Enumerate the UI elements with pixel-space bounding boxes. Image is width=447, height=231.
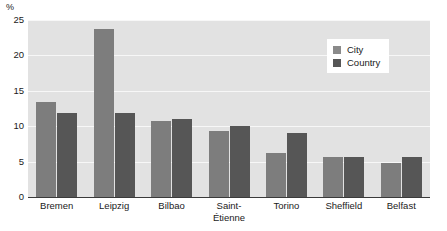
x-axis-label-line: Belfast: [387, 200, 416, 211]
bar-country: [287, 133, 307, 197]
legend-swatch-icon: [333, 46, 341, 54]
y-axis-tick-label: 5: [2, 157, 24, 167]
bar-city: [323, 157, 343, 197]
y-axis-tick-label: 10: [2, 121, 24, 131]
bar-group: [266, 20, 307, 197]
x-axis-label-line: Sheffield: [325, 200, 362, 211]
bar-country: [230, 126, 250, 197]
x-axis-label-line: Torino: [273, 200, 299, 211]
chart-legend: CityCountry: [327, 39, 389, 73]
bar-city: [151, 121, 171, 197]
x-axis-label-line: Bremen: [40, 200, 73, 211]
legend-item: City: [333, 43, 380, 56]
bar-group: [151, 20, 192, 197]
bar-city: [381, 163, 401, 197]
x-axis-label-line: Bilbao: [158, 200, 184, 211]
bar-chart: % 0510152025 BremenLeipzigBilbaoSaint-Ét…: [0, 0, 447, 231]
x-axis-label-line: Étienne: [188, 212, 269, 224]
x-axis-category-label: Belfast: [361, 200, 442, 212]
bar-country: [402, 157, 422, 197]
bar-city: [266, 153, 286, 197]
x-axis-category-labels: BremenLeipzigBilbaoSaint-ÉtienneTorinoSh…: [28, 200, 430, 231]
bar-group: [209, 20, 250, 197]
y-axis-tick-labels: 0510152025: [0, 0, 24, 231]
x-axis-label-line: Leipzig: [99, 200, 129, 211]
bar-group: [94, 20, 135, 197]
y-axis-tick-label: 25: [2, 15, 24, 25]
bar-group: [36, 20, 77, 197]
x-axis-label-line: Saint-: [217, 200, 242, 211]
legend-swatch-icon: [333, 59, 341, 67]
bar-city: [36, 102, 56, 197]
bar-city: [94, 29, 114, 198]
bar-city: [209, 131, 229, 197]
bar-country: [115, 113, 135, 197]
y-axis-tick-label: 15: [2, 86, 24, 96]
legend-label: Country: [347, 57, 380, 68]
bar-country: [57, 113, 77, 197]
bar-country: [344, 157, 364, 197]
y-axis-tick-label: 20: [2, 50, 24, 60]
x-axis-line: [28, 197, 430, 198]
legend-label: City: [347, 44, 363, 55]
bar-country: [172, 119, 192, 197]
legend-item: Country: [333, 56, 380, 69]
